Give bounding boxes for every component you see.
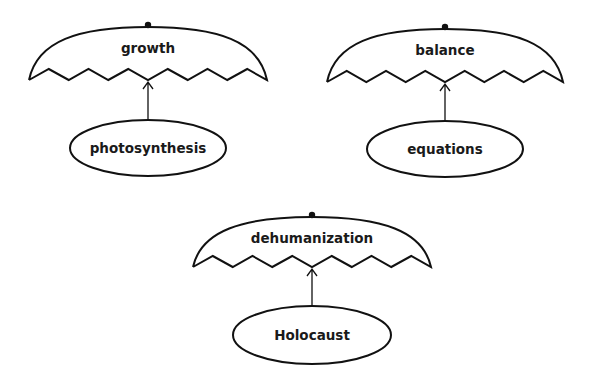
umbrella-balance: balance equations (327, 24, 563, 177)
concept-label: balance (415, 42, 474, 58)
example-label: photosynthesis (90, 140, 207, 156)
concept-label: growth (121, 40, 175, 56)
arrow-up-icon (143, 82, 153, 120)
diagram-canvas: growth photosynthesis balance equations … (0, 0, 593, 387)
example-label: Holocaust (274, 327, 350, 343)
umbrella-tip-dot (145, 22, 151, 28)
arrow-up-icon (307, 269, 317, 306)
umbrella-dehumanization: dehumanization Holocaust (193, 212, 431, 364)
example-label: equations (407, 141, 483, 157)
arrow-up-icon (440, 84, 450, 121)
umbrella-tip-dot (442, 24, 448, 30)
concept-label: dehumanization (251, 230, 373, 246)
umbrella-tip-dot (309, 212, 315, 218)
umbrella-growth: growth photosynthesis (29, 22, 267, 176)
